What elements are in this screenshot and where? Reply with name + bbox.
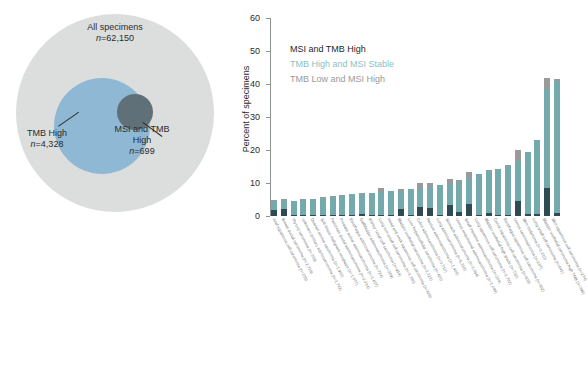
y-tick-label-50: 50 bbox=[234, 46, 260, 56]
bar-group bbox=[271, 0, 560, 216]
bar-segment bbox=[281, 200, 287, 209]
bar-segment bbox=[398, 191, 404, 209]
y-tick-label-10: 10 bbox=[234, 178, 260, 188]
bar[interactable] bbox=[476, 174, 482, 216]
bar-segment bbox=[271, 201, 277, 211]
bar-segment bbox=[349, 215, 355, 216]
bar[interactable] bbox=[310, 199, 316, 216]
bar[interactable] bbox=[486, 170, 492, 216]
bar[interactable] bbox=[271, 200, 277, 216]
bar-segment bbox=[476, 215, 482, 216]
bar-segment bbox=[310, 215, 316, 216]
bar[interactable] bbox=[281, 199, 287, 216]
bar-segment bbox=[486, 213, 492, 216]
bar-segment bbox=[291, 215, 297, 216]
stacked-bar-chart-panel: Percent of specimens 0102030405060 MSI a… bbox=[230, 0, 560, 368]
all-specimens-label: All specimens n=62,150 bbox=[58, 22, 172, 44]
bar[interactable] bbox=[320, 197, 326, 216]
bar[interactable] bbox=[349, 194, 355, 216]
bar[interactable] bbox=[330, 196, 336, 216]
x-axis-label: Bladder urothelial carcinoma high TMB (n… bbox=[541, 217, 586, 295]
bar-segment bbox=[486, 171, 492, 213]
bar[interactable] bbox=[300, 199, 306, 216]
y-tick-label-40: 40 bbox=[234, 79, 260, 89]
bar-segment bbox=[554, 81, 560, 213]
bar-segment bbox=[291, 201, 297, 216]
bar-segment bbox=[476, 174, 482, 215]
bar-segment bbox=[515, 150, 521, 161]
tmb-high-count: n=4,328 bbox=[4, 139, 90, 150]
bar-segment bbox=[525, 152, 531, 214]
bar[interactable] bbox=[534, 140, 540, 216]
bar-segment bbox=[505, 215, 511, 216]
bar-segment bbox=[281, 209, 287, 216]
bar-segment bbox=[437, 185, 443, 215]
tmb-high-label: TMB High n=4,328 bbox=[4, 128, 90, 150]
bar-segment bbox=[408, 189, 414, 215]
bar-segment bbox=[359, 214, 365, 216]
bar[interactable] bbox=[359, 193, 365, 216]
msi-and-tmb-high-title-2: High bbox=[96, 135, 188, 146]
all-specimens-title: All specimens bbox=[58, 22, 172, 33]
bar-segment bbox=[534, 214, 540, 216]
bar[interactable] bbox=[339, 195, 345, 216]
bar-segment bbox=[359, 194, 365, 214]
tmb-high-title: TMB High bbox=[4, 128, 90, 139]
y-axis-ticks: 0102030405060 bbox=[230, 0, 270, 240]
bar-segment bbox=[320, 198, 326, 216]
bar[interactable] bbox=[378, 188, 384, 216]
bar[interactable] bbox=[291, 201, 297, 217]
venn-diagram-panel: All specimens n=62,150 TMB High n=4,328 … bbox=[0, 0, 230, 250]
y-tick-label-0: 0 bbox=[234, 211, 260, 221]
y-tick-label-60: 60 bbox=[234, 13, 260, 23]
y-tick-label-20: 20 bbox=[234, 145, 260, 155]
bar-segment bbox=[388, 191, 394, 215]
bar-segment bbox=[330, 197, 336, 215]
bar[interactable] bbox=[408, 189, 414, 216]
x-axis-labels: Anal squamous cell carcinoma (n=215)Brea… bbox=[271, 217, 560, 362]
bar-segment bbox=[466, 204, 472, 216]
bar[interactable] bbox=[525, 152, 531, 216]
bar[interactable] bbox=[417, 183, 423, 216]
bar-segment bbox=[320, 215, 326, 216]
bar-segment bbox=[447, 184, 453, 205]
bar-segment bbox=[398, 209, 404, 216]
bar-segment bbox=[388, 215, 394, 216]
bar[interactable] bbox=[437, 185, 443, 216]
msi-and-tmb-high-label: MSI and TMB High n=699 bbox=[96, 124, 188, 157]
bar[interactable] bbox=[398, 189, 404, 216]
bar-segment bbox=[339, 196, 345, 216]
bar-segment bbox=[505, 166, 511, 216]
bar[interactable] bbox=[544, 78, 550, 216]
bar-segment bbox=[456, 212, 462, 216]
bar-segment bbox=[427, 187, 433, 208]
bar-segment bbox=[525, 214, 531, 216]
bar-segment bbox=[544, 78, 550, 89]
msi-and-tmb-high-title: MSI and TMB bbox=[96, 124, 188, 135]
bar-segment bbox=[534, 140, 540, 214]
bar-segment bbox=[495, 169, 501, 215]
bar[interactable] bbox=[515, 150, 521, 216]
bar[interactable] bbox=[554, 79, 560, 216]
bar[interactable] bbox=[505, 165, 511, 216]
bar-segment bbox=[515, 201, 521, 216]
bar[interactable] bbox=[388, 191, 394, 216]
bar-segment bbox=[330, 215, 336, 216]
bar[interactable] bbox=[369, 193, 375, 216]
all-specimens-count: n=62,150 bbox=[58, 33, 172, 44]
bar-segment bbox=[515, 161, 521, 201]
bar[interactable] bbox=[447, 179, 453, 216]
bar-segment bbox=[300, 200, 306, 216]
bar-segment bbox=[378, 192, 384, 215]
bar-segment bbox=[417, 188, 423, 206]
bar-segment bbox=[466, 178, 472, 204]
bar-segment bbox=[417, 207, 423, 216]
bar[interactable] bbox=[427, 183, 433, 216]
bar[interactable] bbox=[466, 172, 472, 216]
bar-segment bbox=[544, 89, 550, 188]
bar[interactable] bbox=[495, 169, 501, 217]
msi-and-tmb-high-count: n=699 bbox=[96, 146, 188, 157]
bar-segment bbox=[495, 215, 501, 216]
bar-segment bbox=[554, 213, 560, 216]
bar[interactable] bbox=[456, 180, 462, 216]
